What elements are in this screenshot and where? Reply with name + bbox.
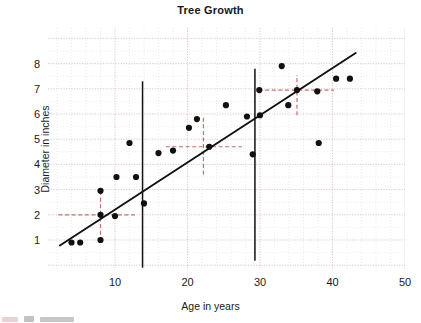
data-point [126,140,132,146]
y-tick-label-1: 1 [18,234,40,246]
data-point [97,212,103,218]
chart-title: Tree Growth [0,4,421,16]
data-point [170,147,176,153]
data-point [316,140,322,146]
data-point [223,102,229,108]
data-point [257,112,263,118]
data-point [97,188,103,194]
data-point [244,113,250,119]
x-tick-label-30: 30 [240,276,280,288]
y-tick-label-5: 5 [18,133,40,145]
chart-canvas [48,28,405,270]
grid-lines [48,28,405,270]
y-tick-label-3: 3 [18,184,40,196]
vertical-marker-group [143,69,255,268]
artifact-mark-dark [24,316,34,322]
page-edge-artifact [0,316,120,323]
data-point [77,239,83,245]
y-tick-label-6: 6 [18,108,40,120]
x-tick-label-10: 10 [95,276,135,288]
artifact-mark-gray [40,317,74,322]
x-tick-label-20: 20 [168,276,208,288]
x-axis-label: Age in years [0,300,421,312]
plot-area [48,28,405,270]
data-point [194,116,200,122]
data-point [133,174,139,180]
data-point [97,237,103,243]
y-tick-label-8: 8 [18,58,40,70]
data-point [141,200,147,206]
data-point [155,150,161,156]
y-tick-label-2: 2 [18,209,40,221]
data-point [206,144,212,150]
data-point [347,76,353,82]
data-point [250,151,256,157]
data-point [256,87,262,93]
data-point [113,174,119,180]
data-point [333,76,339,82]
data-point-group [68,63,353,246]
data-point [68,239,74,245]
data-point [279,63,285,69]
chart-page: Tree Growth Diameter in inches 123456781… [0,0,421,323]
y-tick-label-7: 7 [18,83,40,95]
x-tick-label-50: 50 [385,276,421,288]
data-point [112,213,118,219]
data-point [285,102,291,108]
x-tick-label-40: 40 [313,276,353,288]
artifact-mark-red [2,317,18,322]
data-point [294,87,300,93]
y-tick-label-4: 4 [18,158,40,170]
data-point [186,125,192,131]
data-point [314,88,320,94]
